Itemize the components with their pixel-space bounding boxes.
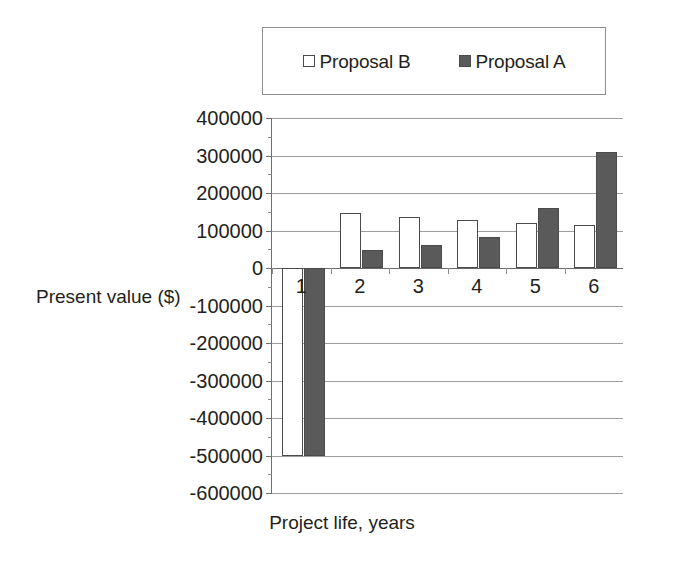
bar — [574, 225, 595, 268]
y-axis-minor-tick — [268, 437, 272, 438]
y-axis-tick — [266, 418, 272, 419]
x-axis-category-label: 2 — [354, 276, 365, 296]
y-axis-tick-label: 0 — [252, 258, 263, 278]
y-axis-minor-tick — [268, 287, 272, 288]
y-axis-tick — [266, 306, 272, 307]
y-axis-minor-tick — [268, 174, 272, 175]
y-axis-tick-label: 400000 — [196, 108, 263, 128]
y-axis-minor-tick — [268, 212, 272, 213]
y-axis-tick — [266, 156, 272, 157]
y-axis-tick — [266, 193, 272, 194]
x-axis-tick — [389, 268, 390, 274]
legend-label-proposal-b: Proposal B — [320, 52, 411, 71]
y-axis-minor-tick — [268, 249, 272, 250]
bar — [479, 237, 500, 268]
gridline — [272, 156, 623, 157]
y-axis-tick-label: -600000 — [190, 483, 263, 503]
x-axis-category-label: 5 — [530, 276, 541, 296]
chart-plot-area: 4000003000002000001000000-100000-200000-… — [271, 118, 622, 493]
bar — [457, 220, 478, 268]
y-axis-tick-label: 200000 — [196, 183, 263, 203]
legend-label-proposal-a: Proposal A — [476, 52, 566, 71]
x-axis-tick — [272, 268, 273, 274]
chart-legend: Proposal B Proposal A — [262, 27, 606, 95]
y-axis-tick — [266, 343, 272, 344]
legend-swatch-filled-square-icon — [459, 55, 471, 67]
x-axis-category-label: 6 — [588, 276, 599, 296]
x-axis-category-label: 3 — [413, 276, 424, 296]
x-axis-tick — [448, 268, 449, 274]
legend-entry-proposal-b: Proposal B — [303, 52, 411, 71]
bar — [399, 217, 420, 268]
y-axis-title: Present value ($) — [36, 286, 181, 308]
x-axis-category-label: 1 — [296, 276, 307, 296]
x-axis-title: Project life, years — [0, 512, 684, 534]
gridline — [272, 493, 623, 494]
y-axis-tick-label: -500000 — [190, 446, 263, 466]
y-axis-tick — [266, 231, 272, 232]
gridline — [272, 231, 623, 232]
gridline — [272, 456, 623, 457]
gridline — [272, 193, 623, 194]
y-axis-tick-label: 100000 — [196, 221, 263, 241]
y-axis-tick — [266, 493, 272, 494]
y-axis-tick-label: -100000 — [190, 296, 263, 316]
bar — [596, 152, 617, 268]
y-axis-minor-tick — [268, 399, 272, 400]
x-axis-tick — [506, 268, 507, 274]
y-axis-tick-label: -300000 — [190, 371, 263, 391]
bar — [362, 250, 383, 268]
y-axis-minor-tick — [268, 137, 272, 138]
x-axis-tick — [565, 268, 566, 274]
y-axis-minor-tick — [268, 474, 272, 475]
y-axis-tick-label: -200000 — [190, 333, 263, 353]
bar — [421, 245, 442, 268]
y-axis-tick — [266, 456, 272, 457]
y-axis-minor-tick — [268, 324, 272, 325]
y-axis-tick-label: 300000 — [196, 146, 263, 166]
y-axis-tick-label: -400000 — [190, 408, 263, 428]
gridline — [272, 118, 623, 119]
bar — [304, 268, 325, 456]
legend-swatch-hollow-square-icon — [303, 55, 315, 67]
y-axis-minor-tick — [268, 362, 272, 363]
x-axis-tick — [331, 268, 332, 274]
y-axis-tick — [266, 381, 272, 382]
x-axis-category-label: 4 — [471, 276, 482, 296]
bar — [538, 208, 559, 268]
legend-entry-proposal-a: Proposal A — [459, 52, 566, 71]
y-axis-tick — [266, 118, 272, 119]
bar — [516, 223, 537, 268]
bar — [340, 213, 361, 268]
